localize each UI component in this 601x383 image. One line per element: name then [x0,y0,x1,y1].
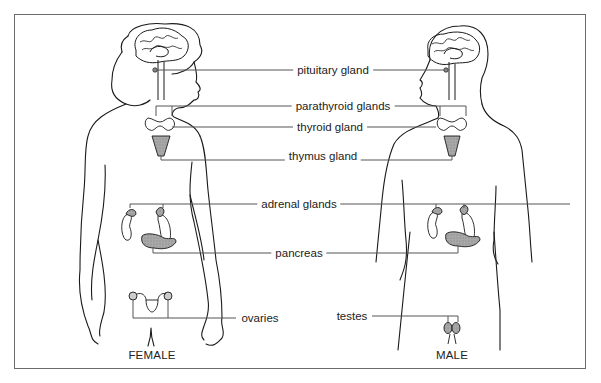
label-female: FEMALE [128,349,175,361]
label-testes: testes [333,309,372,323]
male-torso-left [376,118,438,262]
female-brain [135,28,188,100]
female-hair [112,24,202,106]
female-pituitary [153,68,157,72]
endocrine-illustration [0,0,601,383]
label-pituitary-gland: pituitary gland [293,63,373,77]
female-genital-mark [148,328,154,346]
label-parathyroid-glands: parathyroid glands [292,99,395,113]
male-face [420,60,439,118]
male-pituitary [444,68,448,72]
female-torso-right [200,136,223,345]
male-thyroid [437,118,466,130]
female-uterus [129,292,172,312]
female-thymus [152,136,170,156]
male-brain [428,32,480,100]
female-torso-left [79,104,126,344]
male-thymus [444,136,460,156]
male-testes [444,323,460,345]
female-figure [79,24,223,347]
female-abdominal-organs [122,208,176,249]
label-thyroid-gland: thyroid gland [293,120,367,134]
label-pancreas: pancreas [271,246,326,260]
label-male: MALE [436,349,468,361]
male-abdominal-organs [428,206,480,247]
label-adrenal-glands: adrenal glands [257,197,340,211]
female-thyroid [145,118,174,130]
label-thymus-gland: thymus gland [285,149,361,163]
male-figure [376,26,532,350]
male-torso-right [482,104,532,262]
label-ovaries: ovaries [237,311,282,325]
